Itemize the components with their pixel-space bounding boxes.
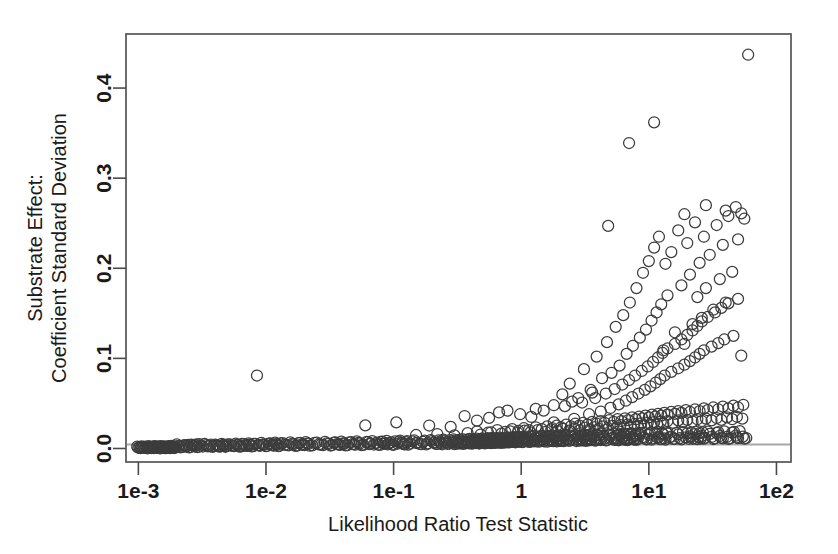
data-point [631, 283, 642, 294]
data-point [700, 200, 711, 211]
data-point [614, 360, 625, 371]
data-point [391, 417, 402, 428]
data-point [638, 267, 649, 278]
x-tick-label: 1e-3 [117, 479, 159, 502]
data-point [653, 231, 664, 242]
data-point [618, 310, 629, 321]
x-tick-label: 1e-2 [245, 479, 287, 502]
data-point [711, 220, 722, 231]
y-tick-label: 0.3 [92, 164, 115, 193]
y-axis-ticks: 0.00.10.20.30.4 [92, 73, 126, 463]
data-point [459, 411, 470, 422]
data-point [717, 239, 728, 250]
data-point [673, 363, 684, 374]
data-point [526, 411, 537, 422]
data-point [634, 332, 645, 343]
data-point [557, 389, 568, 400]
plot-frame [126, 34, 791, 462]
data-point [627, 392, 638, 403]
y-tick-label: 0.2 [92, 254, 115, 283]
data-point [643, 256, 654, 267]
scatter-plot-figure: 1e-31e-21e-111e11e2 0.00.10.20.30.4 Like… [0, 0, 838, 554]
data-point [251, 370, 262, 381]
data-point [360, 420, 371, 431]
data-point [679, 209, 690, 220]
x-tick-label: 1e-1 [373, 479, 415, 502]
data-point [633, 388, 644, 399]
data-point [601, 337, 612, 348]
data-point [666, 247, 677, 258]
data-point [660, 258, 671, 269]
data-point [700, 283, 711, 294]
data-point [649, 242, 660, 253]
data-point [733, 293, 744, 304]
x-tick-label: 1e2 [759, 479, 794, 502]
data-point [728, 330, 739, 341]
data-point [714, 274, 725, 285]
data-point [743, 49, 754, 60]
data-point [471, 415, 482, 426]
data-point [651, 307, 662, 318]
x-tick-label: 1 [515, 479, 527, 502]
data-point [736, 350, 747, 361]
data-point [610, 321, 621, 332]
data-point [424, 420, 435, 431]
data-point [676, 280, 687, 291]
data-point [564, 378, 575, 389]
y-tick-label: 0.4 [92, 73, 115, 103]
x-axis-title: Likelihood Ratio Test Statistic [328, 513, 588, 535]
data-point [698, 231, 709, 242]
data-point [548, 400, 559, 411]
data-point [624, 138, 635, 149]
data-point [692, 292, 703, 303]
data-point [733, 234, 744, 245]
data-point [484, 412, 495, 423]
y-tick-label: 0.0 [92, 434, 115, 463]
data-point [682, 238, 693, 249]
data-point [538, 405, 549, 416]
data-point [646, 315, 657, 326]
data-point [673, 225, 684, 236]
data-point [704, 249, 715, 260]
y-axis-title-line2: Coefficient Standard Deviation [48, 113, 70, 383]
y-tick-label: 0.1 [92, 343, 115, 373]
data-point [684, 269, 695, 280]
data-point [591, 351, 602, 362]
plot-canvas: 1e-31e-21e-111e11e2 0.00.10.20.30.4 Like… [0, 0, 838, 554]
y-axis-title-line1: Substrate Effect: [24, 174, 46, 322]
data-point [662, 290, 673, 301]
data-point [694, 257, 705, 268]
data-points-layer [132, 49, 754, 454]
data-point [727, 266, 738, 277]
data-point [515, 409, 526, 420]
data-point [666, 366, 677, 377]
data-point [649, 117, 660, 128]
data-point [578, 364, 589, 375]
x-axis-ticks: 1e-31e-21e-111e11e2 [117, 462, 794, 502]
data-point [669, 327, 680, 338]
data-point [530, 403, 541, 414]
x-tick-label: 1e1 [631, 479, 666, 502]
data-point [603, 220, 614, 231]
data-point [690, 217, 701, 228]
data-point [624, 297, 635, 308]
